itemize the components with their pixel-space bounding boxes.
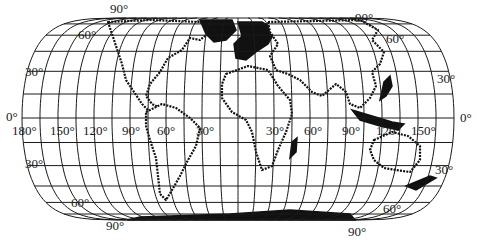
meridian-line [22,18,116,220]
label-lon-30w: 30° [196,124,214,137]
meridian-line [202,18,218,220]
label-lon-180: 180° [12,124,37,137]
label-lat-60s-right: 60° [383,202,401,215]
label-lat-60s-left: 60° [71,196,89,209]
landmass-japan [380,76,392,100]
meridian-line [220,18,228,220]
label-lon-120e: 120° [376,124,401,137]
label-lat-30n-left: 30° [25,65,43,78]
meridian-line [40,18,126,220]
label-lat-0-left: 0° [6,110,18,123]
label-lon-120w: 120° [83,124,108,137]
label-lat-30s-right: 30° [435,163,453,176]
label-lat-30s-left: 30° [25,157,43,170]
graticule [22,18,454,220]
label-lat-60n-left: 60° [78,28,96,41]
label-lon-30e: 30° [266,124,284,137]
label-lon-90e: 90° [342,124,360,137]
label-lat-90s-right: 90° [348,225,366,238]
label-lon-60w: 60° [157,124,175,137]
label-lat-0-right: 0° [460,111,472,124]
label-lon-60e: 60° [304,124,322,137]
label-lat-90n-right: 90° [355,11,373,24]
label-lat-60n-right: 60° [386,32,404,45]
label-lat-30n-right: 30° [437,72,455,85]
label-lon-150w: 150° [50,124,75,137]
landmass-north-america [108,20,212,112]
label-lat-90s-left: 90° [106,219,124,232]
label-lon-150e: 150° [411,124,436,137]
label-lon-90w: 90° [122,124,140,137]
label-lat-90n-left: 90° [110,2,128,15]
world-map: 90° 60° 30° 0° 30° 60° 90° 90° 60° 30° 0… [0,0,477,245]
